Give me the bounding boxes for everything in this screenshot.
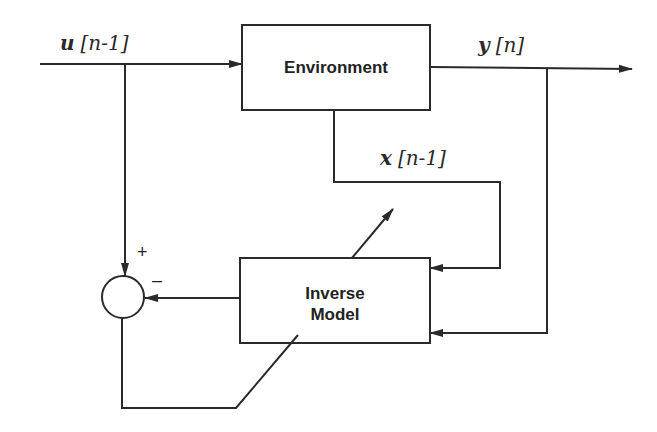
input-label: u[n-1] (60, 31, 129, 55)
state-label: x[n-1] (379, 146, 446, 170)
output-label: y[n] (477, 33, 524, 57)
output-signal-line (430, 67, 632, 69)
plus-sign: + (137, 242, 148, 262)
minus-sign: – (152, 270, 162, 290)
error-feedback-line (122, 318, 298, 408)
block-diagram: u[n-1] y[n] x[n-1] Environment Inverse M… (0, 0, 657, 432)
state-signal-line (334, 110, 500, 268)
summing-junction (102, 276, 144, 318)
environment-label: Environment (284, 58, 388, 77)
adaptation-arrow (352, 209, 393, 258)
output-feedback-line (430, 68, 547, 333)
inverse-model-label-line2: Model (310, 305, 359, 324)
inverse-model-label-line1: Inverse (305, 284, 365, 303)
